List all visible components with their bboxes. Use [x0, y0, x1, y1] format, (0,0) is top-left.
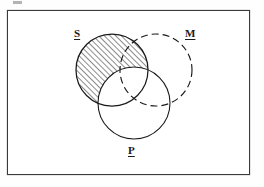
venn-diagram	[0, 0, 264, 187]
circle-label-m: M	[185, 28, 195, 39]
diagram-page: S M P	[0, 0, 264, 187]
circle-label-s: S	[74, 28, 80, 39]
circle-label-p: P	[128, 145, 135, 156]
shaded-region-s-minus-p	[0, 0, 264, 187]
